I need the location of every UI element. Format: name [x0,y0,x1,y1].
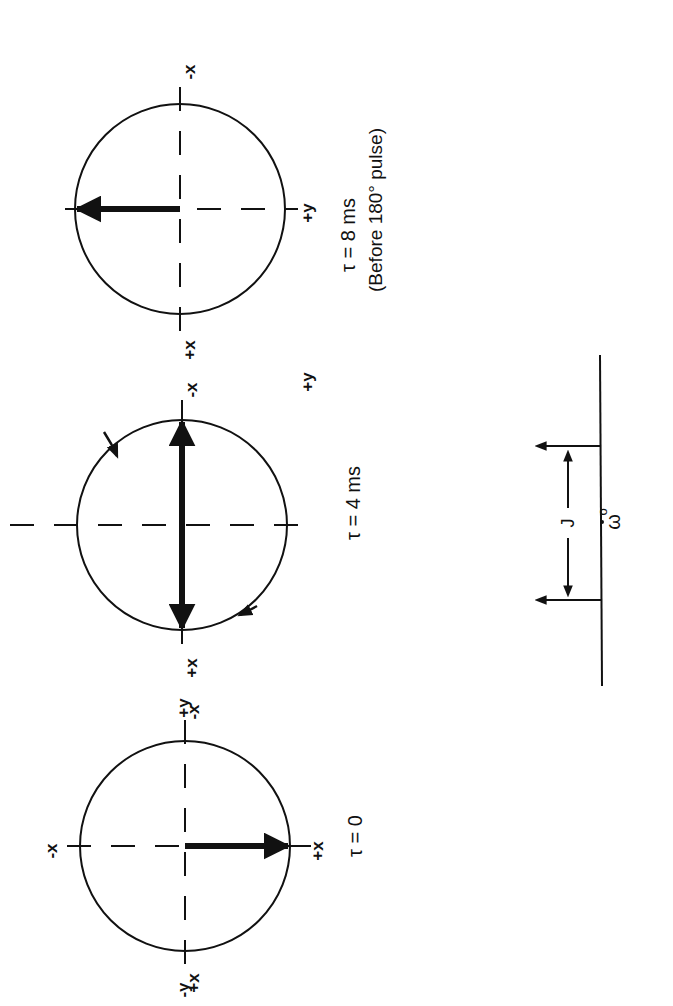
tau0-labels: +y -y -x +x [0,0,673,1006]
axis-label-plus-x-tau0: +x [308,841,327,861]
axis-label-plus-y-tau0: +y [174,698,193,718]
axis-label-minus-y-tau0: -y [174,982,193,998]
axis-label-minus-x-tau0: -x [42,843,61,859]
